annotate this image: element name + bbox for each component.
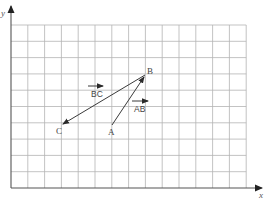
svg-text:AB: AB [134, 104, 146, 114]
point-b-label: B [147, 66, 153, 76]
vector-bc [63, 75, 145, 124]
vector-diagram: x y A B C BC AB [0, 0, 266, 200]
x-axis-label: x [258, 190, 263, 200]
svg-text:BC: BC [91, 89, 103, 99]
grid [11, 25, 246, 188]
point-c-label: C [56, 126, 62, 136]
point-a-label: A [108, 127, 115, 137]
vector-label-bc: BC [88, 86, 103, 99]
y-axis-label: y [0, 8, 5, 18]
